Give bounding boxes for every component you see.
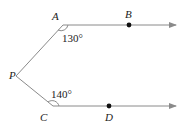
label-P: P <box>8 69 16 81</box>
angle-label-C: 140° <box>51 88 72 100</box>
angle-arc-A <box>58 25 68 31</box>
label-A: A <box>51 10 59 22</box>
label-B: B <box>125 8 132 20</box>
label-D: D <box>104 111 113 123</box>
label-C: C <box>40 111 48 123</box>
angle-label-A: 130° <box>62 32 83 44</box>
geometry-diagram: A B P C D 130° 140° <box>0 0 188 129</box>
segment-PC <box>16 76 53 106</box>
point-B <box>127 23 132 28</box>
diagram-svg: A B P C D 130° 140° <box>0 0 188 129</box>
segment-PA <box>16 25 63 76</box>
point-D <box>107 104 112 109</box>
